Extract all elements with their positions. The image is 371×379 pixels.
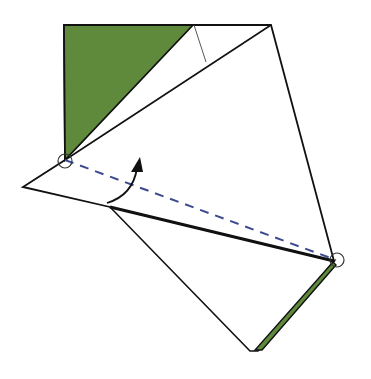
origami-diagram bbox=[0, 0, 371, 379]
